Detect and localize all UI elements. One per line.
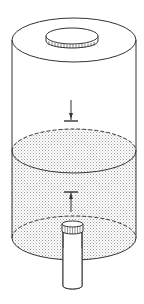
arrow-down-icon <box>64 100 78 121</box>
outlet-pipe <box>62 221 83 289</box>
cap <box>46 28 98 48</box>
cylinder-diagram <box>0 0 144 304</box>
